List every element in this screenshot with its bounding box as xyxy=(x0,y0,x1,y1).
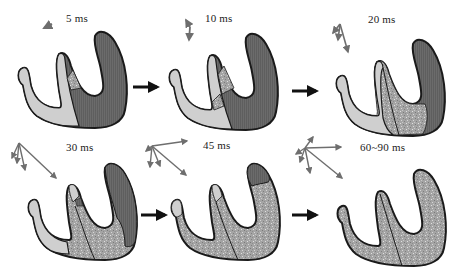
vector-arrows-20ms xyxy=(333,24,348,52)
time-label-5ms: 5 ms xyxy=(66,12,88,24)
depolarization-diagram: 5 ms 10 ms 20 ms 30 ms 45 ms 60~90 ms xyxy=(0,0,458,270)
panel-5ms xyxy=(19,32,127,128)
time-label-10ms: 10 ms xyxy=(205,12,233,24)
vector-arrows-10ms xyxy=(186,20,190,40)
time-label-60-90ms: 60~90 ms xyxy=(360,141,405,153)
panel-45ms xyxy=(172,164,280,260)
time-label-45ms: 45 ms xyxy=(203,139,231,151)
vector-arrows-45ms xyxy=(146,141,187,175)
panel-20ms xyxy=(337,40,445,136)
time-label-30ms: 30 ms xyxy=(66,141,94,153)
vector-arrows-5ms xyxy=(44,24,52,28)
panel-30ms xyxy=(29,164,137,260)
diagram-canvas xyxy=(0,0,458,270)
panel-10ms xyxy=(170,34,278,130)
vector-arrows-30ms xyxy=(12,143,56,178)
time-label-20ms: 20 ms xyxy=(368,13,396,25)
panel-60-90ms xyxy=(338,170,446,266)
vector-arrows-60-90ms xyxy=(296,137,342,178)
